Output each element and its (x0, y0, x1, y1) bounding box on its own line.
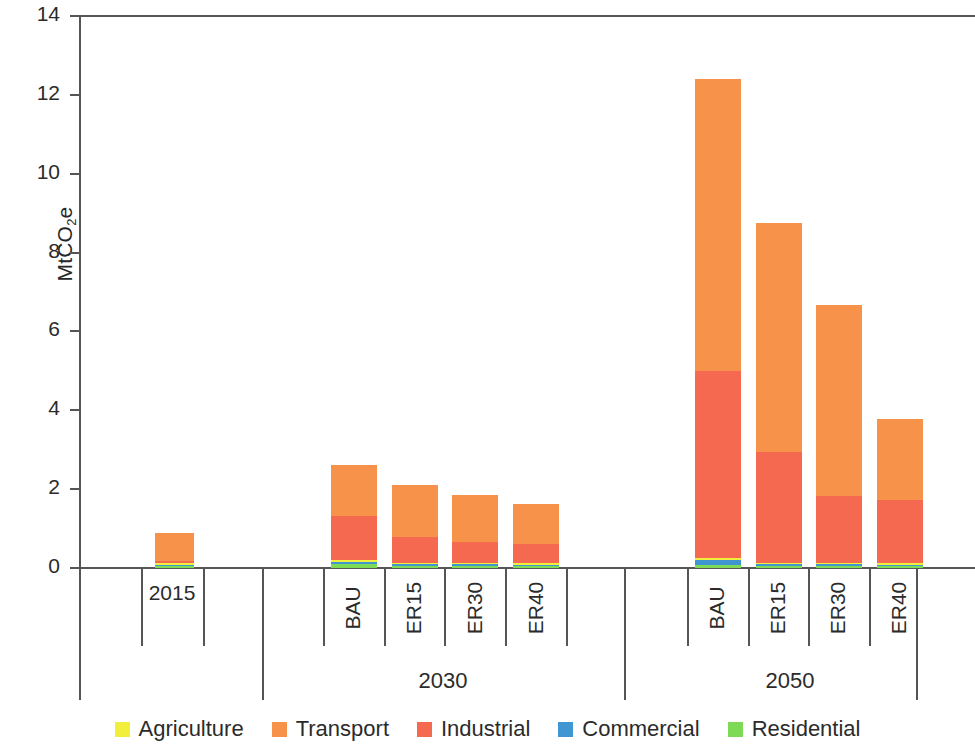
x-axis-group-divider (916, 569, 918, 700)
x-axis-group-divider (79, 569, 81, 700)
y-axis-title-suffix: e (53, 207, 76, 219)
legend-label: Commercial (582, 716, 699, 742)
bar-segment-commercial (392, 564, 438, 566)
x-category-label: ER15 (765, 568, 791, 648)
x-axis-tick (869, 569, 871, 646)
bar-segment-transport (331, 465, 377, 516)
bar-segment-agriculture (756, 563, 802, 565)
legend-swatch-icon (728, 722, 743, 737)
bar-BAU-2050[interactable] (695, 79, 741, 568)
bar-segment-commercial (513, 565, 559, 567)
bar-segment-industrial (756, 452, 802, 562)
bar-ER30-2050[interactable] (816, 305, 862, 568)
bar-ER15-2030[interactable] (392, 485, 438, 568)
y-tick-label: 12 (14, 81, 60, 105)
bar-ER40-2030[interactable] (513, 504, 559, 568)
x-axis-tick (687, 569, 689, 646)
x-category-label: ER30 (462, 568, 488, 648)
bar-segment-agriculture (392, 563, 438, 565)
y-axis-line (79, 15, 81, 570)
x-axis-tick (748, 569, 750, 646)
bar-segment-industrial (877, 500, 923, 563)
bar-segment-industrial (392, 537, 438, 563)
x-category-label: 2015 (132, 581, 212, 605)
y-axis-title-main: MtCO (53, 226, 76, 282)
legend-item[interactable]: Agriculture (115, 716, 244, 742)
y-axis-ticks: 02468101214 (0, 0, 975, 751)
bar-segment-agriculture (452, 563, 498, 565)
bar-BAU-2030[interactable] (331, 465, 377, 568)
x-axis-tick (323, 569, 325, 646)
bar-segment-transport (392, 485, 438, 537)
x-axis-tick (203, 569, 205, 646)
bar-segment-transport (816, 305, 862, 496)
legend-item[interactable]: Transport (272, 716, 389, 742)
y-tick-label: 2 (14, 475, 60, 499)
x-axis-tick (141, 569, 143, 646)
bar-segment-industrial (331, 516, 377, 560)
x-axis-layer: 2015BAUER15ER30ER40BAUER15ER30ER40203020… (0, 0, 975, 751)
legend-swatch-icon (558, 722, 573, 737)
bar-2015-2015[interactable] (155, 533, 194, 568)
bars-layer (0, 0, 975, 751)
bar-segment-industrial (695, 371, 741, 558)
x-category-label: BAU (340, 568, 366, 648)
bar-segment-industrial (513, 544, 559, 563)
bar-segment-agriculture (331, 560, 377, 562)
bar-segment-transport (452, 495, 498, 543)
x-axis-baseline (79, 567, 975, 569)
stacked-bar-chart: MtCO2e 02468101214 2015BAUER15ER30ER40BA… (0, 0, 975, 751)
bar-segment-commercial (756, 564, 802, 566)
legend-item[interactable]: Industrial (417, 716, 530, 742)
x-axis-tick (566, 569, 568, 646)
bar-segment-agriculture (877, 563, 923, 565)
chart-legend: AgricultureTransportIndustrialCommercial… (0, 716, 975, 742)
bar-segment-commercial (695, 560, 741, 566)
x-group-label: 2050 (720, 668, 860, 694)
x-axis-tick (808, 569, 810, 646)
bar-segment-commercial (155, 565, 194, 567)
y-axis-title: MtCO2e (53, 179, 77, 309)
x-category-label: BAU (704, 568, 730, 648)
bar-segment-industrial (816, 496, 862, 563)
x-category-label: ER40 (523, 568, 549, 648)
bar-segment-commercial (452, 564, 498, 566)
bar-ER30-2030[interactable] (452, 495, 498, 568)
bar-ER40-2050[interactable] (877, 419, 923, 568)
bar-segment-agriculture (816, 563, 862, 565)
bar-segment-agriculture (155, 563, 194, 565)
y-axis-title-subscript: 2 (64, 218, 79, 225)
legend-label: Industrial (441, 716, 530, 742)
x-axis-group-divider (262, 569, 264, 700)
bar-segment-commercial (331, 562, 377, 565)
legend-swatch-icon (272, 722, 287, 737)
x-category-label: ER30 (825, 568, 851, 648)
legend-swatch-icon (115, 722, 130, 737)
legend-item[interactable]: Commercial (558, 716, 699, 742)
legend-swatch-icon (417, 722, 432, 737)
y-tick-label: 6 (14, 317, 60, 341)
y-tick-label: 4 (14, 396, 60, 420)
bar-segment-transport (877, 419, 923, 501)
bar-segment-industrial (155, 561, 194, 563)
bar-segment-transport (513, 504, 559, 543)
x-axis-tick (444, 569, 446, 646)
x-category-label: ER15 (401, 568, 427, 648)
x-axis-tick (384, 569, 386, 646)
bar-segment-agriculture (695, 558, 741, 560)
bar-segment-agriculture (513, 563, 559, 565)
legend-label: Transport (296, 716, 389, 742)
legend-label: Agriculture (139, 716, 244, 742)
bar-ER15-2050[interactable] (756, 223, 802, 568)
bar-segment-transport (695, 79, 741, 371)
y-tick-label: 0 (14, 554, 60, 578)
y-tick-label: 14 (14, 2, 60, 26)
x-axis-group-divider (624, 569, 626, 700)
x-axis-tick (505, 569, 507, 646)
legend-item[interactable]: Residential (728, 716, 861, 742)
bar-segment-transport (155, 533, 194, 562)
bar-segment-transport (756, 223, 802, 452)
legend-label: Residential (752, 716, 861, 742)
plot-top-rule (79, 15, 975, 17)
bar-segment-industrial (452, 542, 498, 563)
